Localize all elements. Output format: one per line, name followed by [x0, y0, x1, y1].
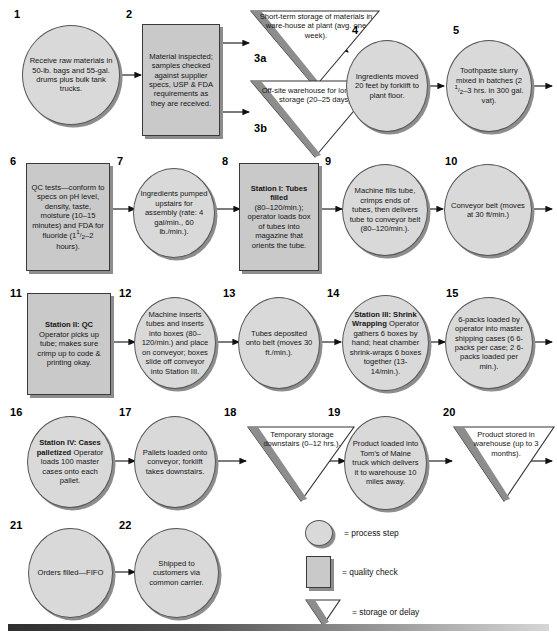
step-11-text: Station II: QCOperator picks up tube; ma… [28, 320, 110, 367]
step-11-heading: Station II: QC [45, 320, 93, 329]
step-17-process[interactable]: Pallets loaded onto conveyor; forklift t… [134, 416, 216, 508]
quality-check-symbol-icon [306, 556, 331, 588]
step-14-process[interactable]: Station III: Shrink Wrapping Operator ga… [342, 295, 429, 391]
step-number-4: 4 [352, 24, 358, 36]
step-number-20: 20 [443, 406, 456, 418]
step-13-text: Tubes deposited onto belt (moves 30 ft./… [239, 329, 319, 357]
step-number-13: 13 [223, 287, 236, 299]
legend-label-process-step: = process step [344, 528, 399, 538]
step-4-text: Ingredients moved 20 feet by forklift to… [347, 72, 427, 100]
step-number-2: 2 [126, 8, 132, 20]
step-3a-text: Short-term storage of materials in ware-… [255, 12, 377, 40]
step-5-process[interactable]: Toothpaste slurry mixed in batches (21/2… [446, 40, 532, 132]
step-number-3b: 3b [254, 122, 267, 134]
step-15-process[interactable]: 6-packs loaded by operator into master s… [445, 297, 533, 389]
step-number-1: 1 [14, 8, 20, 20]
step-number-10: 10 [445, 155, 458, 167]
storage-delay-symbol-icon [305, 598, 341, 626]
step-number-21: 21 [10, 519, 23, 531]
step-6-text: QC tests—conform to specs on pH level, d… [27, 183, 109, 251]
step-11-quality-check[interactable]: Station II: QCOperator picks up tube; ma… [27, 293, 111, 395]
legend-item-process-step: = process step [305, 520, 399, 546]
legend-label-storage-delay: = storage or delay [352, 607, 419, 617]
legend-item-storage-delay: = storage or delay [305, 598, 419, 626]
legend-item-quality-check: = quality check [306, 556, 398, 588]
process-step-symbol-icon [305, 520, 333, 546]
step-15-text: 6-packs loaded by operator into master s… [446, 315, 532, 371]
step-8-heading: Station I: Tubes filled [251, 184, 307, 202]
step-21-text: Orders filled—FIFO [32, 568, 110, 577]
step-2-text: Material inspected; samples checked agai… [143, 52, 219, 108]
step-number-9: 9 [325, 155, 331, 167]
step-number-22: 22 [119, 519, 132, 531]
step-22-text: Shipped to customers via common carrier. [135, 559, 218, 587]
step-22-process[interactable]: Shipped to customers via common carrier. [134, 528, 219, 618]
step-5-text: Toothpaste slurry mixed in batches (21/2… [447, 66, 531, 106]
step-18-text: Temporary storage downstairs (0–12 hrs.)… [254, 430, 350, 449]
step-12-text: Machine inserts tubes and inserts into b… [135, 310, 215, 376]
step-7-process[interactable]: Ingredients pumped upstairs for assembly… [133, 168, 215, 258]
step-number-3a: 3a [254, 52, 267, 64]
step-17-text: Pallets loaded onto conveyor; forklift t… [135, 448, 215, 476]
step-2-quality-check[interactable]: Material inspected; samples checked agai… [142, 24, 220, 136]
step-number-16: 16 [10, 406, 23, 418]
step-10-text: Conveyor belt (moves at 30 ft/min.) [445, 201, 531, 220]
step-4-process[interactable]: Ingredients moved 20 feet by forklift to… [346, 40, 428, 132]
step-number-14: 14 [327, 287, 340, 299]
step-7-text: Ingredients pumped upstairs for assembly… [134, 189, 214, 236]
step-6-quality-check[interactable]: QC tests—conform to specs on pH level, d… [26, 163, 110, 271]
step-8-quality-check[interactable]: Station I: Tubes filled(80–120/min.); op… [239, 163, 319, 271]
step-number-7: 7 [117, 155, 123, 167]
step-19-text: Product loaded into Tom's of Maine truck… [345, 439, 426, 486]
footer-gradient-bar [8, 624, 549, 631]
step-8-text: Station I: Tubes filled(80–120/min.); op… [240, 184, 318, 250]
step-16-text: Station IV: Cases palletized Operator lo… [28, 438, 112, 485]
step-12-process[interactable]: Machine inserts tubes and inserts into b… [134, 297, 216, 389]
step-number-15: 15 [446, 287, 459, 299]
step-21-process[interactable]: Orders filled—FIFO [28, 528, 113, 618]
step-number-5: 5 [453, 24, 459, 36]
flowchart-diagram: 1 Receive raw materials in 50-lb. bags a… [0, 0, 557, 640]
step-19-process[interactable]: Product loaded into Tom's of Maine truck… [344, 416, 427, 510]
step-number-18: 18 [224, 406, 237, 418]
step-1-process[interactable]: Receive raw materials in 50-lb. bags and… [22, 25, 120, 125]
step-9-process[interactable]: Machine fills tube, crimps ends of tubes… [342, 164, 428, 256]
legend-label-quality-check: = quality check [342, 567, 398, 577]
step-14-text: Station III: Shrink Wrapping Operator ga… [343, 310, 428, 376]
step-16-process[interactable]: Station IV: Cases palletized Operator lo… [27, 416, 113, 508]
step-1-text: Receive raw materials in 50-lb. bags and… [23, 56, 119, 94]
step-number-8: 8 [222, 155, 228, 167]
step-9-text: Machine fills tube, crimps ends of tubes… [343, 186, 427, 233]
step-20-text: Product stored in warehouse (up to 3 mon… [460, 430, 552, 458]
step-number-19: 19 [328, 406, 341, 418]
step-number-6: 6 [10, 155, 16, 167]
step-number-11: 11 [10, 287, 22, 299]
step-number-12: 12 [119, 287, 132, 299]
step-13-process[interactable]: Tubes deposited onto belt (moves 30 ft./… [238, 297, 320, 389]
step-10-process[interactable]: Conveyor belt (moves at 30 ft/min.) [444, 164, 532, 256]
step-number-17: 17 [119, 406, 132, 418]
